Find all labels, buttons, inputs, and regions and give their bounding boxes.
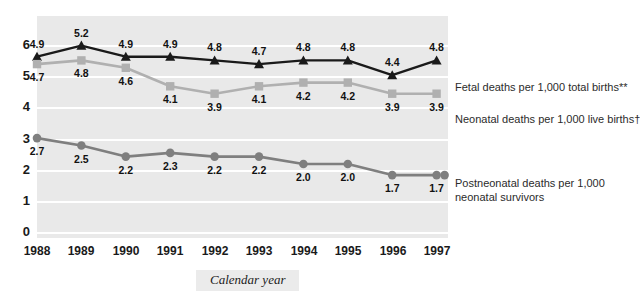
data-value-label: 2.3: [155, 161, 185, 172]
data-value-label: 3.9: [200, 102, 230, 113]
data-value-label: 4.9: [111, 39, 141, 50]
data-point-square: [122, 64, 130, 72]
data-point-circle: [299, 160, 308, 169]
data-value-label: 4.1: [155, 94, 185, 105]
data-value-label: 4.2: [288, 91, 318, 102]
data-point-circle: [33, 134, 42, 143]
data-point-square: [33, 60, 41, 68]
data-point-circle: [388, 171, 397, 180]
data-point-circle: [166, 149, 175, 158]
data-value-label: 4.8: [333, 42, 363, 53]
data-value-label: 2.7: [22, 146, 52, 157]
data-point-circle: [122, 152, 131, 161]
data-value-label: 3.9: [422, 102, 452, 113]
data-point-circle: [432, 171, 441, 180]
data-value-label: 2.0: [333, 172, 363, 183]
data-point-triangle: [432, 55, 442, 64]
data-point-square: [210, 90, 218, 98]
data-point-circle: [210, 152, 219, 161]
data-point-square: [255, 82, 263, 90]
data-point-square: [166, 82, 174, 90]
data-value-label: 2.2: [244, 165, 274, 176]
data-value-label: 4.9: [155, 39, 185, 50]
x-axis-title: Calendar year: [196, 270, 299, 291]
data-value-label: 1.7: [422, 183, 452, 194]
data-value-label: 2.5: [66, 154, 96, 165]
data-value-label: 2.2: [111, 165, 141, 176]
data-value-label: 4.6: [111, 76, 141, 87]
data-point-square: [299, 78, 307, 86]
data-value-label: 5.2: [66, 28, 96, 39]
data-point-circle: [77, 141, 86, 150]
legend-label-postneonatal-line2: neonatal survivors: [455, 191, 605, 205]
data-value-label: 4.4: [377, 57, 407, 68]
data-value-label: 4.7: [244, 46, 274, 57]
data-value-label: 1.7: [377, 183, 407, 194]
data-value-label: 4.9: [22, 39, 52, 50]
data-point-square: [344, 78, 352, 86]
data-point-square: [388, 90, 396, 98]
data-value-label: 4.7: [22, 72, 52, 83]
legend-label-postneonatal: Postneonatal deaths per 1,000 neonatal s…: [455, 177, 605, 204]
data-value-label: 2.2: [200, 165, 230, 176]
data-value-label: 4.8: [422, 42, 452, 53]
data-point-square: [432, 90, 440, 98]
data-value-label: 3.9: [377, 102, 407, 113]
series-line-2: [37, 138, 437, 175]
data-point-square: [77, 56, 85, 64]
data-value-label: 4.8: [200, 42, 230, 53]
data-point-circle: [344, 160, 353, 169]
data-point-circle: [255, 152, 264, 161]
data-value-label: 2.0: [288, 172, 318, 183]
legend-label-postneonatal-line1: Postneonatal deaths per 1,000: [455, 177, 605, 191]
data-point-triangle: [76, 41, 86, 50]
legend-label-neonatal: Neonatal deaths per 1,000 live births†: [455, 113, 640, 127]
x-tick-label: 1997: [411, 244, 463, 258]
data-value-label: 4.8: [66, 68, 96, 79]
data-point-circle: [440, 171, 449, 180]
data-value-label: 4.1: [244, 94, 274, 105]
data-value-label: 4.2: [333, 91, 363, 102]
data-value-label: 4.8: [288, 42, 318, 53]
legend-label-fetal: Fetal deaths per 1,000 total births**: [455, 81, 627, 95]
